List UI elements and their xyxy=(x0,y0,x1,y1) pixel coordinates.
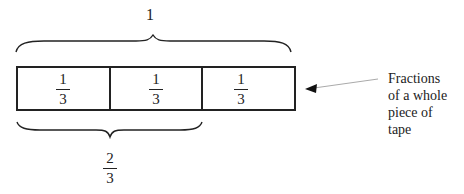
fraction-bar xyxy=(234,89,248,90)
numerator: 1 xyxy=(229,72,253,87)
bottom-brace-fraction: 2 3 xyxy=(98,151,122,186)
numerator: 2 xyxy=(98,151,122,166)
numerator: 1 xyxy=(51,72,75,87)
bottom-brace xyxy=(17,122,202,137)
arrowhead-icon xyxy=(305,84,317,93)
numerator: 1 xyxy=(144,72,168,87)
callout-line-3: piece of xyxy=(388,104,464,121)
tape-diagram: 1 1 3 1 3 1 3 2 3 Fractions of a whole p… xyxy=(0,0,464,194)
callout-line-2: of a whole xyxy=(388,87,464,104)
whole-label: 1 xyxy=(146,6,154,24)
tape-segment-1-fraction: 1 3 xyxy=(51,72,75,107)
callout-text: Fractions of a whole piece of tape xyxy=(388,70,464,138)
denominator: 3 xyxy=(98,171,122,186)
fraction-bar xyxy=(149,89,163,90)
fraction-bar xyxy=(56,89,70,90)
top-brace xyxy=(16,35,291,52)
denominator: 3 xyxy=(51,92,75,107)
callout-line-4: tape xyxy=(388,121,464,138)
callout-arrow-line xyxy=(314,79,378,88)
denominator: 3 xyxy=(144,92,168,107)
tape-segment-2-fraction: 1 3 xyxy=(144,72,168,107)
denominator: 3 xyxy=(229,92,253,107)
fraction-bar xyxy=(103,168,117,169)
callout-line-1: Fractions xyxy=(388,70,464,87)
tape-segment-3-fraction: 1 3 xyxy=(229,72,253,107)
